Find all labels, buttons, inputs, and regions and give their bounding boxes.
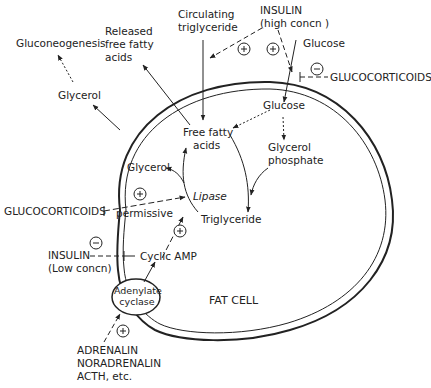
- label-glucose-outside: Glucose: [303, 37, 345, 50]
- label-lipase: Lipase: [193, 190, 227, 203]
- label-glycerol-phosphate-2: phosphate: [268, 154, 324, 167]
- label-fat-cell: FAT CELL: [209, 294, 258, 307]
- label-glycerol-inside: Glycerol: [127, 161, 170, 174]
- label-released-ffa-3: acids: [105, 51, 132, 64]
- label-insulin-low-2: (Low concn): [48, 262, 112, 275]
- label-triglyceride: Triglyceride: [201, 213, 262, 226]
- label-circulating-tg-2: triglyceride: [178, 21, 238, 34]
- label-glycerol-phosphate-1: Glycerol: [268, 141, 311, 154]
- label-adenylate-cyclase-1: Adenylate: [114, 285, 160, 296]
- label-ffa-2: acids: [193, 139, 220, 152]
- fat-cell-diagram: Gluconeogenesis Glycerol Released free f…: [0, 0, 431, 388]
- label-glucocorticoids-left: GLUCOCORTICOIDS: [4, 205, 106, 218]
- label-permissive: permissive: [116, 207, 173, 220]
- label-adenylate-cyclase-2: cyclase: [114, 296, 160, 307]
- label-glucocorticoids-top: GLUCOCORTICOIDS: [330, 71, 431, 84]
- label-noradrenalin: NORADRENALIN: [77, 357, 161, 370]
- label-insulin-high-1: INSULIN: [260, 4, 302, 17]
- label-released-ffa-2: free fatty: [105, 38, 154, 51]
- label-insulin-low-1: INSULIN: [48, 249, 90, 262]
- label-glycerol-outside: Glycerol: [58, 89, 101, 102]
- label-cyclic-amp: Cyclic AMP: [140, 250, 197, 263]
- label-circulating-tg-1: Circulating: [178, 8, 234, 21]
- label-glucose-inside: Glucose: [263, 99, 305, 112]
- label-adrenalin: ADRENALIN: [77, 344, 138, 357]
- label-insulin-high-2: (high concn ): [260, 17, 329, 30]
- label-acth: ACTH, etc.: [77, 370, 132, 383]
- label-gluconeogenesis: Gluconeogenesis: [16, 37, 106, 50]
- label-ffa-1: Free fatty: [183, 126, 233, 139]
- label-released-ffa-1: Released: [105, 25, 153, 38]
